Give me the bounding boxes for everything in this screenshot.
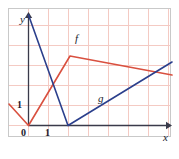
curve-label-g: g: [98, 93, 104, 104]
x-unit-tick-label: 1: [45, 128, 50, 138]
y-axis-label: y: [20, 14, 25, 25]
y-unit-tick-label: 1: [17, 100, 22, 110]
curve-label-f: f: [75, 33, 78, 44]
x-axis-label: x: [163, 132, 168, 143]
origin-tick-label: 0: [21, 128, 26, 138]
graph-figure: y x 0 1 1 f g: [0, 0, 179, 159]
plot-canvas: [0, 0, 179, 159]
